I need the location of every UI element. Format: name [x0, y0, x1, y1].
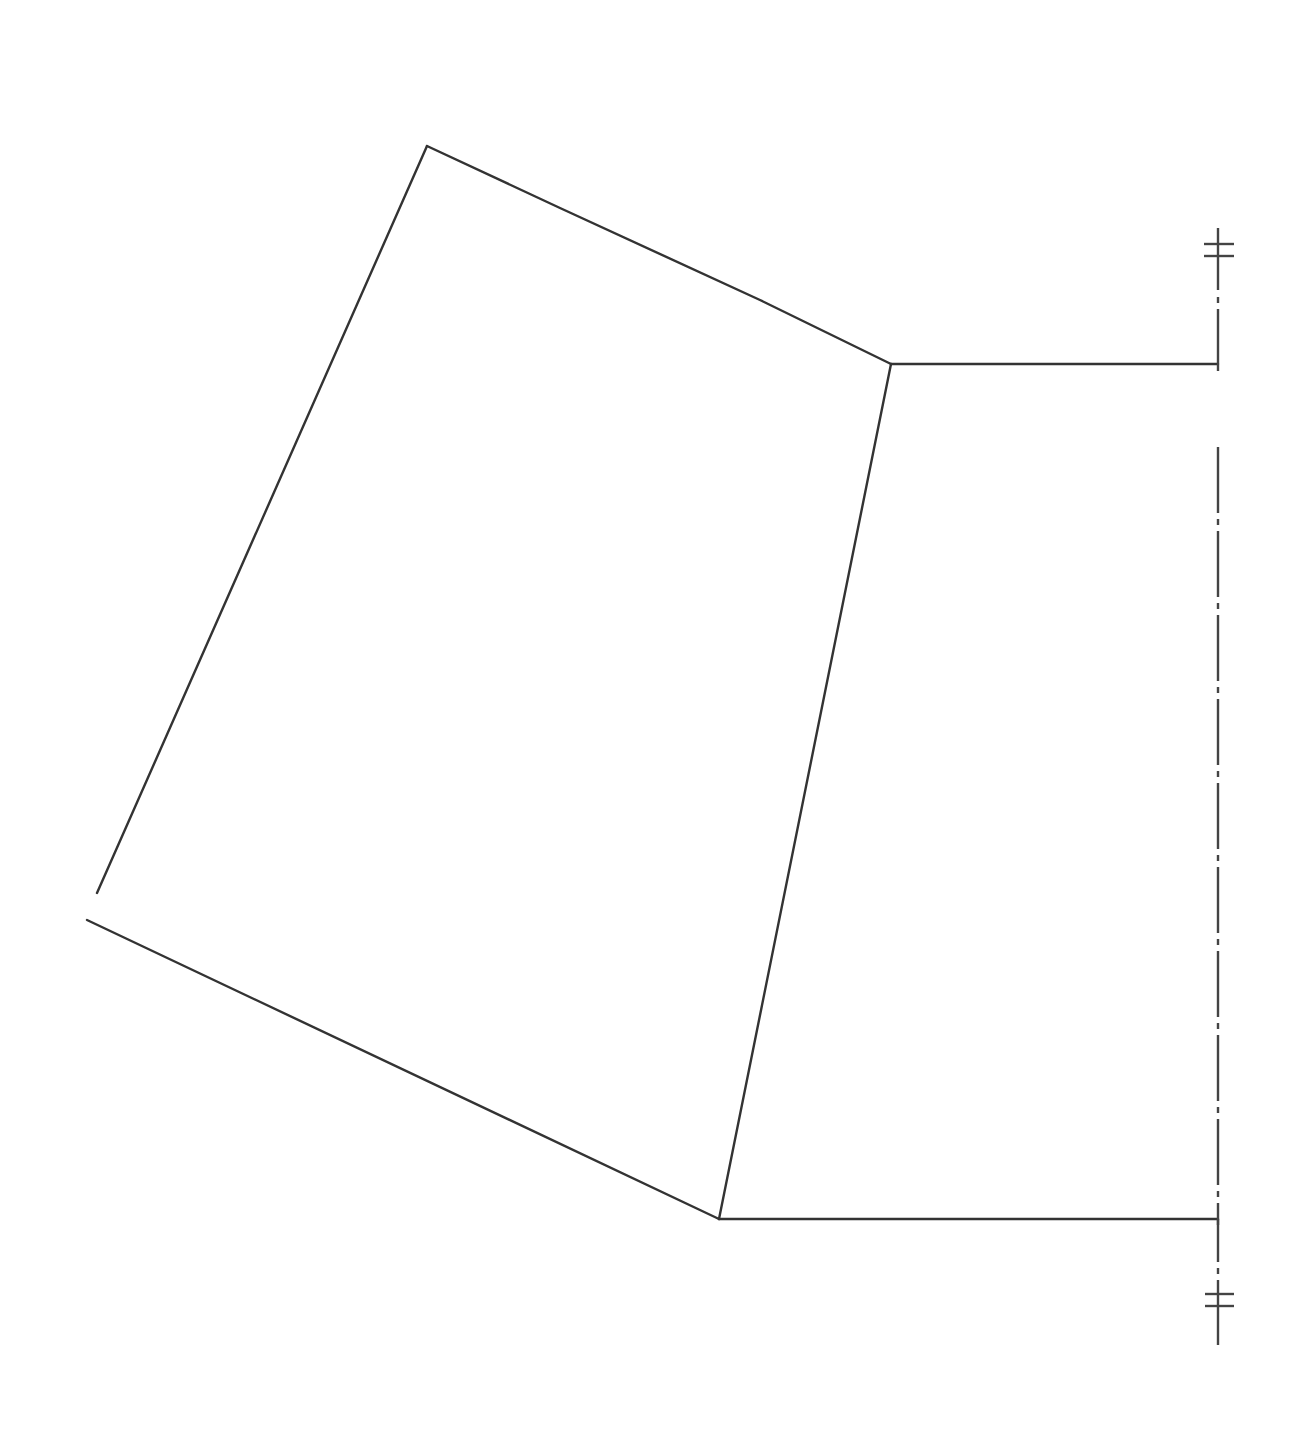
- upper-left-edge: [97, 146, 427, 893]
- top-slanted-edge: [427, 146, 891, 364]
- diagram-svg: [0, 0, 1312, 1435]
- middle-slanted-edge: [719, 364, 891, 1219]
- bottom-slanted-edge: [87, 920, 719, 1219]
- diagram-canvas: [0, 0, 1312, 1435]
